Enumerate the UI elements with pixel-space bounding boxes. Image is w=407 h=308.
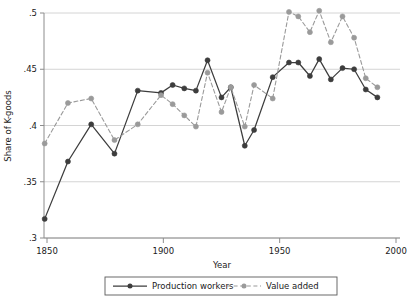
data-point — [135, 88, 140, 93]
data-point — [328, 77, 333, 82]
data-point — [252, 83, 257, 88]
legend-label: Value added — [266, 281, 319, 291]
data-point — [42, 141, 47, 146]
data-point — [286, 60, 291, 65]
data-point — [182, 86, 187, 91]
data-point — [205, 58, 210, 63]
data-point — [112, 151, 117, 156]
data-point — [252, 128, 257, 133]
data-point — [193, 124, 198, 129]
chart-legend: Production workersValue added — [105, 277, 337, 295]
data-point — [159, 93, 164, 98]
data-point — [228, 85, 233, 90]
data-point — [317, 57, 322, 62]
data-point — [42, 216, 47, 221]
data-point — [328, 40, 333, 45]
data-point — [340, 66, 345, 71]
caption-ghost — [10, 300, 400, 308]
data-point — [205, 70, 210, 75]
y-tick-label: .5 — [29, 8, 37, 18]
data-point — [286, 9, 291, 14]
data-point — [89, 96, 94, 101]
x-tick-label: 1950 — [269, 246, 291, 256]
data-point — [219, 110, 224, 115]
x-tick-label: 1900 — [153, 246, 175, 256]
y-axis-title: Share of K-goods — [3, 90, 13, 162]
data-point — [317, 8, 322, 13]
data-point — [375, 85, 380, 90]
legend-marker — [242, 284, 247, 289]
data-point — [170, 83, 175, 88]
line-chart: .3.35.4.45.5 1850190019502000 Share of K… — [0, 0, 407, 308]
y-tick-label: .3 — [29, 233, 37, 243]
data-point — [242, 143, 247, 148]
x-tick-label: 1850 — [36, 246, 58, 256]
data-point — [219, 95, 224, 100]
data-point — [242, 124, 247, 129]
data-point — [307, 74, 312, 79]
data-point — [65, 101, 70, 106]
data-point — [340, 14, 345, 19]
data-point — [270, 96, 275, 101]
data-point — [89, 122, 94, 127]
data-point — [182, 113, 187, 118]
data-point — [363, 76, 368, 81]
chart-figure: .3.35.4.45.5 1850190019502000 Share of K… — [0, 0, 407, 308]
chart-background — [0, 0, 407, 308]
y-tick-label: .35 — [23, 177, 37, 187]
data-point — [375, 95, 380, 100]
data-point — [135, 122, 140, 127]
data-point — [296, 14, 301, 19]
data-point — [296, 60, 301, 65]
data-point — [363, 87, 368, 92]
y-tick-label: .4 — [29, 121, 37, 131]
data-point — [112, 138, 117, 143]
data-point — [352, 67, 357, 72]
data-point — [352, 35, 357, 40]
y-tick-label: .45 — [23, 64, 37, 74]
legend-label: Production workers — [152, 281, 234, 291]
data-point — [193, 88, 198, 93]
data-point — [307, 30, 312, 35]
x-tick-label: 2000 — [385, 246, 407, 256]
data-point — [170, 102, 175, 107]
data-point — [270, 75, 275, 80]
legend-marker — [128, 284, 133, 289]
x-axis-title: Year — [212, 260, 232, 270]
data-point — [65, 159, 70, 164]
